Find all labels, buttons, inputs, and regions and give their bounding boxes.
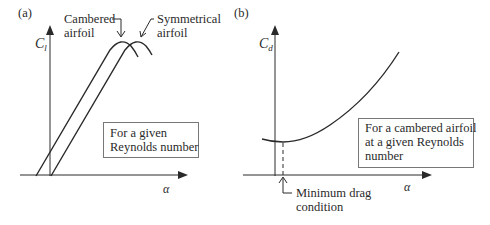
cambered-label-line2: airfoil [64, 26, 95, 40]
panel-b-note-line3: number [365, 149, 404, 163]
panel-a-x-label: α [163, 182, 170, 196]
panel-b-note-line1: For a cambered airfoil [365, 121, 477, 135]
panel-b-note-line2: at a given Reynolds [365, 135, 464, 149]
panel-a-note-line1: For a given [110, 126, 168, 140]
panel-b-x-label: α [404, 180, 411, 194]
panel-b: (b) Cd α Minimum drag condition For a ca… [234, 6, 477, 214]
symmetrical-label-line2: airfoil [157, 26, 188, 40]
panel-a-label: (a) [18, 6, 32, 20]
panel-a: (a) Cl α Cambered airfoil Symmetrical ai… [18, 6, 221, 196]
panel-b-label: (b) [234, 6, 249, 20]
symmetrical-pointer-line [141, 19, 154, 37]
diagram-canvas: (a) Cl α Cambered airfoil Symmetrical ai… [0, 0, 490, 225]
x-axis-arrow-icon [178, 171, 188, 179]
x-axis-arrow-icon [422, 171, 432, 179]
minimum-drag-pointer-line [283, 178, 292, 193]
y-axis-arrow-icon [46, 25, 54, 35]
minimum-drag-label-line2: condition [296, 200, 344, 214]
panel-a-note-line2: Reynolds number [110, 140, 199, 154]
minimum-drag-label-line1: Minimum drag [296, 186, 372, 200]
panel-a-y-label: Cl [35, 36, 47, 53]
symmetrical-label-line1: Symmetrical [157, 12, 221, 26]
panel-b-y-label: Cd [259, 36, 273, 53]
y-axis-arrow-icon [271, 25, 279, 35]
cambered-label-line1: Cambered [64, 12, 116, 26]
